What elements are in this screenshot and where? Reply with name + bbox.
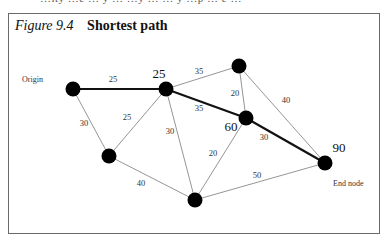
edges [73, 66, 325, 200]
node-mid [239, 111, 254, 126]
weight-origin-a: 25 [109, 74, 118, 84]
edge-a-bottom [166, 89, 195, 200]
node-top [232, 59, 247, 74]
weight-mid-bottom: 20 [209, 148, 218, 158]
edge-origin-lower-left [73, 89, 109, 156]
path-edge-mid-end [246, 118, 325, 163]
node-a [159, 82, 174, 97]
weight-mid-end: 30 [260, 132, 269, 142]
weight-a-mid: 35 [195, 103, 204, 113]
origin-caption: Origin [22, 75, 43, 84]
weight-a-bottom: 30 [166, 126, 175, 136]
shortest-path-graph: 25 30 25 30 35 35 20 40 30 20 40 50 25 6… [0, 0, 388, 245]
weight-lower-left-bottom: 40 [137, 178, 146, 188]
weight-a-top: 35 [195, 66, 204, 76]
end-node-caption: End node [333, 179, 364, 188]
nodes [66, 59, 333, 208]
weight-lower-left-a: 25 [123, 112, 132, 122]
node-end [318, 156, 333, 171]
weight-top-mid: 20 [231, 88, 240, 98]
weight-origin-lower-left: 30 [80, 118, 89, 128]
value-node-a: 25 [153, 66, 166, 81]
node-lower-left [102, 149, 117, 164]
node-values: 25 60 90 [153, 66, 346, 155]
weight-top-end: 40 [282, 95, 291, 105]
value-node-mid: 60 [225, 119, 238, 134]
edge-top-mid [239, 66, 246, 118]
node-origin [66, 82, 81, 97]
value-node-end: 90 [333, 140, 346, 155]
edge-weights: 25 30 25 30 35 35 20 40 30 20 40 50 [80, 66, 291, 188]
weight-bottom-end: 50 [253, 170, 262, 180]
node-bottom [188, 193, 203, 208]
edge-lower-left-bottom [109, 156, 195, 200]
edge-lower-left-a [109, 89, 166, 156]
